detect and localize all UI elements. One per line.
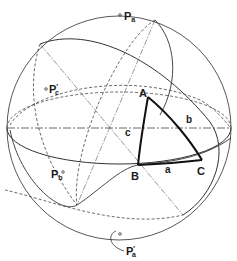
pole-pb-dot (62, 171, 65, 174)
vertex-b-label: B (131, 170, 139, 182)
vertex-c-label: C (197, 165, 205, 177)
pole-pc-prime-label: P′c (49, 83, 59, 96)
lower-arc-front (10, 130, 77, 207)
triangle-side-c (138, 97, 148, 165)
great-circle-bc-front (77, 138, 231, 205)
diameter-2 (77, 20, 155, 205)
pole-pa-prime-label: P′a (126, 245, 136, 258)
pole-pb-label: Pb (51, 168, 63, 181)
great-circle-left-back (33, 44, 77, 205)
diameter-1 (40, 44, 183, 215)
side-c-label: c (125, 127, 131, 138)
meridian-top-front (155, 20, 173, 115)
vertex-a-label: A (139, 87, 147, 99)
pole-pa-label: Pa (124, 10, 135, 23)
pole-pa-prime-dot (119, 233, 122, 236)
pole-pc-prime-dot (45, 88, 48, 91)
spherical-triangle-diagram: A B C a b c Pa P′c Pb P′a (0, 0, 237, 261)
side-a-label: a (165, 164, 171, 175)
meridian-top-back (76, 20, 155, 205)
great-circle-lower-back (5, 190, 183, 219)
triangle-side-b (148, 97, 202, 160)
pole-pa-prime-leader (111, 231, 124, 251)
side-b-label: b (186, 114, 192, 125)
equator-back (7, 92, 231, 128)
